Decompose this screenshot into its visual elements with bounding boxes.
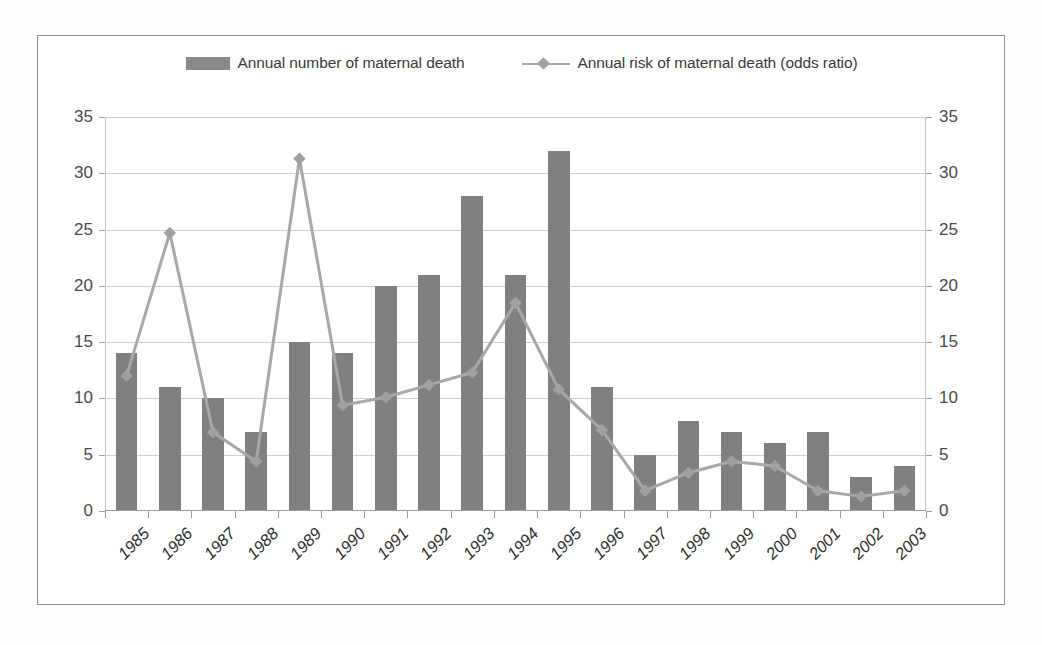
right-axis-tick-label: 5 bbox=[939, 445, 948, 465]
right-tick-mark bbox=[926, 286, 932, 287]
right-axis-tick-label: 10 bbox=[939, 388, 958, 408]
legend-label-line-series: Annual risk of maternal death (odds rati… bbox=[577, 54, 857, 72]
x-axis-tick-label: 1990 bbox=[330, 524, 369, 563]
x-tick-mark bbox=[407, 511, 408, 518]
x-axis-tick-label: 1989 bbox=[286, 524, 325, 563]
line-marker-diamond-icon: 1998: 3.4 bbox=[682, 467, 694, 479]
x-tick-mark bbox=[191, 511, 192, 518]
left-axis-tick-label: 10 bbox=[74, 388, 93, 408]
x-tick-mark bbox=[753, 511, 754, 518]
plot-area: 05101520253035 05101520253035 1985: 1219… bbox=[105, 117, 926, 511]
line-marker-diamond-icon: 1985: 12 bbox=[120, 370, 132, 382]
x-tick-mark bbox=[624, 511, 625, 518]
x-axis-baseline bbox=[105, 510, 926, 511]
x-tick-mark bbox=[840, 511, 841, 518]
right-tick-mark bbox=[926, 342, 932, 343]
line-marker-diamond-icon: 2001: 1.8 bbox=[812, 485, 824, 497]
x-tick-mark bbox=[364, 511, 365, 518]
x-axis-tick-label: 1985 bbox=[114, 524, 153, 563]
x-tick-mark bbox=[105, 511, 106, 518]
x-axis-tick-label: 1992 bbox=[416, 524, 455, 563]
right-axis-tick-label: 25 bbox=[939, 220, 958, 240]
x-tick-mark bbox=[710, 511, 711, 518]
x-axis-tick-label: 2003 bbox=[891, 524, 930, 563]
x-axis-tick-label: 1996 bbox=[589, 524, 628, 563]
right-axis-tick-label: 15 bbox=[939, 332, 958, 352]
chart-figure: Annual number of maternal death Annual r… bbox=[0, 0, 1042, 645]
x-axis-tick-label: 1995 bbox=[546, 524, 585, 563]
legend-entry-bar-series: Annual number of maternal death bbox=[186, 54, 464, 72]
x-axis-tick-label: 2001 bbox=[805, 524, 844, 563]
chart-frame: Annual number of maternal death Annual r… bbox=[37, 35, 1005, 605]
right-axis-tick-label: 20 bbox=[939, 276, 958, 296]
x-axis-tick-label: 2002 bbox=[848, 524, 887, 563]
x-tick-mark bbox=[235, 511, 236, 518]
line-marker-diamond-icon: 1992: 11.2 bbox=[423, 379, 435, 391]
right-tick-mark bbox=[926, 398, 932, 399]
right-tick-mark bbox=[926, 173, 932, 174]
line-marker-diamond-icon: 1986: 24.7 bbox=[164, 227, 176, 239]
line-path bbox=[127, 159, 905, 497]
legend-label-bar-series: Annual number of maternal death bbox=[237, 54, 464, 72]
right-tick-mark bbox=[926, 117, 932, 118]
right-tick-mark bbox=[926, 230, 932, 231]
left-axis-tick-label: 5 bbox=[84, 445, 93, 465]
right-axis-tick-label: 0 bbox=[939, 501, 948, 521]
x-tick-mark bbox=[580, 511, 581, 518]
right-axis-tick-label: 35 bbox=[939, 107, 958, 127]
right-tick-mark bbox=[926, 455, 932, 456]
legend-line-diamond-swatch-icon bbox=[522, 57, 570, 70]
line-marker-diamond-icon: 2002: 1.3 bbox=[855, 490, 867, 502]
x-axis-tick-label: 1988 bbox=[243, 524, 282, 563]
right-axis-tick-label: 30 bbox=[939, 163, 958, 183]
x-tick-mark bbox=[451, 511, 452, 518]
line-series-layer: 1985: 121986: 24.71987: 71988: 4.41989: … bbox=[105, 117, 926, 511]
x-axis-tick-label: 1987 bbox=[200, 524, 239, 563]
x-tick-mark bbox=[796, 511, 797, 518]
x-axis-tick-label: 1991 bbox=[373, 524, 412, 563]
x-tick-mark bbox=[494, 511, 495, 518]
x-axis-tick-label: 1993 bbox=[459, 524, 498, 563]
x-axis-tick-label: 1997 bbox=[632, 524, 671, 563]
x-axis-tick-label: 1998 bbox=[675, 524, 714, 563]
line-marker-diamond-icon: 2003: 1.8 bbox=[898, 485, 910, 497]
line-marker-diamond-icon: 1991: 10.1 bbox=[380, 391, 392, 403]
x-axis-tick-label: 1999 bbox=[719, 524, 758, 563]
legend-bar-swatch-icon bbox=[186, 57, 230, 70]
line-marker-diamond-icon: 1990: 9.4 bbox=[336, 399, 348, 411]
x-tick-mark bbox=[926, 511, 927, 518]
x-tick-mark bbox=[667, 511, 668, 518]
line-marker-diamond-icon: 2000: 4 bbox=[769, 460, 781, 472]
left-axis-tick-label: 30 bbox=[74, 163, 93, 183]
legend-entry-line-series: Annual risk of maternal death (odds rati… bbox=[522, 54, 857, 72]
x-tick-mark bbox=[321, 511, 322, 518]
left-axis-tick-label: 0 bbox=[84, 501, 93, 521]
left-axis-tick-label: 35 bbox=[74, 107, 93, 127]
x-tick-mark bbox=[537, 511, 538, 518]
line-marker-diamond-icon: 1989: 31.3 bbox=[293, 152, 305, 164]
x-axis-tick-label: 1994 bbox=[503, 524, 542, 563]
left-axis-tick-label: 20 bbox=[74, 276, 93, 296]
left-axis-tick-label: 25 bbox=[74, 220, 93, 240]
x-axis-tick-label: 1986 bbox=[157, 524, 196, 563]
x-tick-mark bbox=[883, 511, 884, 518]
x-tick-mark bbox=[278, 511, 279, 518]
line-marker-diamond-icon: 1999: 4.4 bbox=[725, 455, 737, 467]
x-tick-mark bbox=[148, 511, 149, 518]
left-axis-tick-label: 15 bbox=[74, 332, 93, 352]
chart-legend: Annual number of maternal death Annual r… bbox=[38, 54, 1006, 72]
x-axis-tick-label: 2000 bbox=[762, 524, 801, 563]
